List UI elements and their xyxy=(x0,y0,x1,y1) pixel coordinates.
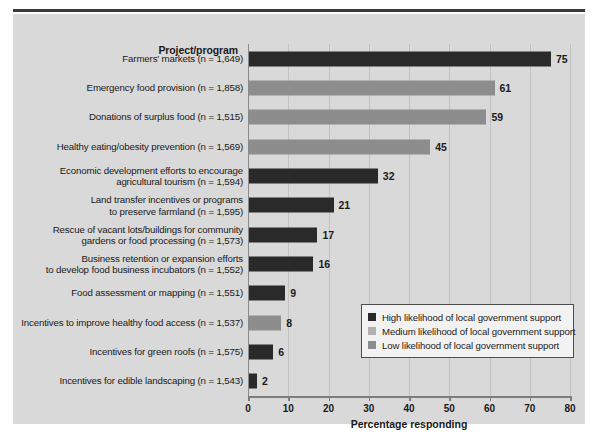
legend-label: Medium likelihood of local government su… xyxy=(382,326,575,337)
bar-row: Farmers' markets (n = 1,649)75 xyxy=(13,44,570,73)
legend-swatch-medium-icon xyxy=(368,327,376,335)
bar-value-label: 21 xyxy=(339,199,351,211)
legend-swatch-low-icon xyxy=(368,341,376,349)
bar[interactable] xyxy=(249,80,495,95)
x-tick-10 xyxy=(288,396,290,401)
bar-row: Healthy eating/obesity prevention (n = 1… xyxy=(13,132,570,161)
bar-row: Donations of surplus food (n = 1,515)59 xyxy=(13,103,570,132)
category-label: Donations of surplus food (n = 1,515) xyxy=(89,112,243,123)
bar-value-label: 17 xyxy=(322,229,334,241)
category-label: Incentives for green roofs (n = 1,575) xyxy=(90,346,243,357)
category-label: Farmers' markets (n = 1,649) xyxy=(122,53,243,64)
legend-item-high[interactable]: High likelihood of local government supp… xyxy=(368,310,566,324)
category-label: Business retention or expansion efforts … xyxy=(46,253,243,276)
x-tick-label-70: 70 xyxy=(524,403,535,414)
bar-value-label: 32 xyxy=(383,170,395,182)
legend-label: High likelihood of local government supp… xyxy=(382,312,561,323)
bar-value-label: 61 xyxy=(500,82,512,94)
bar-value-label: 8 xyxy=(286,317,292,329)
bar-value-label: 59 xyxy=(491,111,503,123)
x-axis-title: Percentage responding xyxy=(248,418,570,430)
bar-value-label: 6 xyxy=(278,346,284,358)
bar[interactable] xyxy=(249,227,317,242)
category-label: Incentives to improve healthy food acces… xyxy=(21,317,243,328)
bar[interactable] xyxy=(249,139,430,154)
bar[interactable] xyxy=(249,198,334,213)
category-label: Food assessment or mapping (n = 1,551) xyxy=(71,288,243,299)
x-tick-label-40: 40 xyxy=(403,403,414,414)
category-label: Incentives for edible landscaping (n = 1… xyxy=(59,376,243,387)
x-tick-label-30: 30 xyxy=(363,403,374,414)
bar-value-label: 9 xyxy=(290,287,296,299)
bar[interactable] xyxy=(249,51,551,66)
x-tick-20 xyxy=(329,396,331,401)
chart-legend: High likelihood of local government supp… xyxy=(361,304,574,358)
category-label: Land transfer incentives or programs to … xyxy=(91,194,243,217)
bar[interactable] xyxy=(249,256,313,271)
category-label: Rescue of vacant lots/buildings for comm… xyxy=(53,223,243,246)
x-tick-label-20: 20 xyxy=(323,403,334,414)
x-tick-label-10: 10 xyxy=(283,403,294,414)
bar[interactable] xyxy=(249,315,281,330)
category-label: Economic development efforts to encourag… xyxy=(60,165,243,188)
bar[interactable] xyxy=(249,286,285,301)
bar-row: Business retention or expansion efforts … xyxy=(13,249,570,278)
x-tick-label-50: 50 xyxy=(444,403,455,414)
cutoff-caption-text xyxy=(16,0,582,8)
x-tick-label-60: 60 xyxy=(484,403,495,414)
x-tick-0 xyxy=(248,396,250,401)
category-header-wrap: Project/program xyxy=(13,14,248,44)
bar-value-label: 2 xyxy=(262,375,268,387)
category-label: Healthy eating/obesity prevention (n = 1… xyxy=(57,141,243,152)
x-tick-label-80: 80 xyxy=(564,403,575,414)
x-tick-40 xyxy=(409,396,411,401)
bar-row: Rescue of vacant lots/buildings for comm… xyxy=(13,220,570,249)
bar-row: Incentives for edible landscaping (n = 1… xyxy=(13,367,570,396)
bar-row: Land transfer incentives or programs to … xyxy=(13,191,570,220)
bar-value-label: 16 xyxy=(318,258,330,270)
legend-swatch-high-icon xyxy=(368,313,376,321)
category-label: Emergency food provision (n = 1,858) xyxy=(87,82,243,93)
bar[interactable] xyxy=(249,110,486,125)
x-tick-60 xyxy=(490,396,492,401)
legend-item-low[interactable]: Low likelihood of local government suppo… xyxy=(368,338,566,352)
x-tick-50 xyxy=(449,396,451,401)
legend-item-medium[interactable]: Medium likelihood of local government su… xyxy=(368,324,566,338)
x-tick-30 xyxy=(369,396,371,401)
x-tick-80 xyxy=(570,396,572,401)
bar-value-label: 45 xyxy=(435,141,447,153)
bar[interactable] xyxy=(249,168,378,183)
bar-row: Economic development efforts to encourag… xyxy=(13,161,570,190)
bar[interactable] xyxy=(249,374,257,389)
figure-top-rule xyxy=(13,9,585,12)
chart-panel: Project/program Farmers' markets (n = 1,… xyxy=(13,14,585,424)
bar-row: Emergency food provision (n = 1,858)61 xyxy=(13,73,570,102)
bar[interactable] xyxy=(249,344,273,359)
legend-label: Low likelihood of local government suppo… xyxy=(382,340,559,351)
bar-value-label: 75 xyxy=(556,53,568,65)
x-tick-70 xyxy=(530,396,532,401)
x-tick-label-0: 0 xyxy=(245,403,251,414)
